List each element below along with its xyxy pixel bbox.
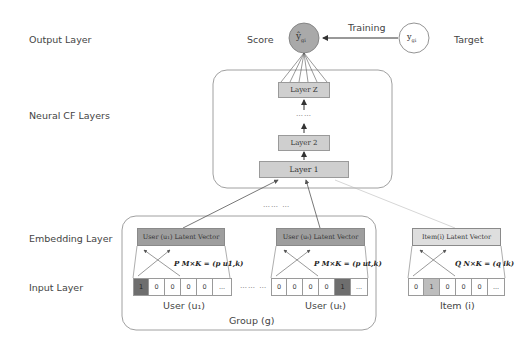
vector-cell: 0 [149,278,165,296]
vector-cell: 0 [472,278,488,296]
vector-cell: 0 [287,278,303,296]
neural-cf-layers-label: Neural CF Layers [29,110,110,121]
users-ellipsis: …… … [240,282,267,290]
user-ut-label: User (uₜ) [305,300,346,311]
output-layer-label: Output Layer [29,34,92,45]
user-u1-latent-vector: User (u₁) Latent Vector [137,228,225,246]
user-ut-formula: P M×K = (p ut,k) [314,259,382,268]
score-symbol: ŷgi [296,31,306,43]
vector-cell: 1 [335,278,351,296]
training-label: Training [348,22,386,33]
layer-z: Layer Z [278,82,330,98]
vector-cell: 1 [424,278,440,296]
item-label: Item (i) [440,300,475,311]
vector-cell: 0 [303,278,319,296]
item-latent-vector: Item(i) Latent Vector [412,228,501,246]
user-u1-label: User (u₁) [163,300,205,311]
user-ut-latent-vector: User (uₜ) Latent Vector [276,228,365,246]
target-symbol: ygi [407,32,416,43]
target-label: Target [454,34,483,45]
input-layer-label: Input Layer [29,282,83,293]
item-one-hot-vector: 0 1 0 0 0 ... [408,278,505,296]
user-u1-formula: P M×K = (p u1,k) [174,259,243,268]
vector-cell: 0 [408,278,424,296]
vector-cell: ... [351,278,368,296]
vector-cell: 1 [133,278,149,296]
users-top-ellipsis: …… … [263,201,290,209]
user-ut-one-hot-vector: 0 0 0 0 1 ... [271,278,368,296]
embedding-layer-label: Embedding Layer [29,233,112,244]
layer-1: Layer 1 [259,161,349,178]
user-u1-one-hot-vector: 1 0 0 0 0 ... [133,278,232,296]
group-label: Group (g) [229,315,274,326]
vector-cell: 0 [319,278,335,296]
layers-ellipsis: …… [296,110,312,118]
vector-cell: ... [488,278,505,296]
layer-2: Layer 2 [278,135,330,151]
vector-cell: 0 [456,278,472,296]
item-formula: Q N×K = (q ik) [455,259,514,268]
vector-cell: 0 [197,278,213,296]
vector-cell: 0 [165,278,181,296]
vector-cell: 0 [440,278,456,296]
vector-cell: 0 [271,278,287,296]
vector-cell: 0 [181,278,197,296]
vector-cell: ... [213,278,232,296]
score-label: Score [247,34,274,45]
